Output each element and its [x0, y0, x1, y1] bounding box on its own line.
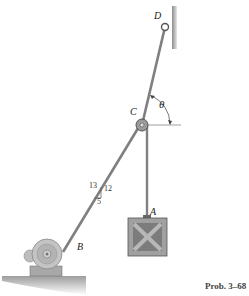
slope-horiz: 5: [97, 197, 101, 206]
cable-cd: [142, 27, 165, 125]
ground: [2, 276, 86, 295]
slope-hyp: 13: [89, 181, 97, 190]
pin-d: [162, 24, 169, 31]
label-theta: θ: [159, 98, 164, 110]
label-a: A: [150, 206, 156, 217]
crate: [128, 218, 167, 256]
label-c: C: [130, 106, 137, 117]
slope-vert: 12: [104, 184, 112, 193]
motor-b: [24, 239, 62, 276]
theta-arrow-bottom: [168, 120, 172, 125]
theta-arrow-top: [150, 95, 155, 99]
wall-support: [172, 6, 177, 49]
label-d: D: [154, 10, 161, 21]
pulley-c-hub: [140, 123, 144, 127]
label-b: B: [77, 241, 83, 252]
problem-caption: Prob. 3–68: [205, 281, 246, 291]
diagram-canvas: [0, 0, 249, 296]
